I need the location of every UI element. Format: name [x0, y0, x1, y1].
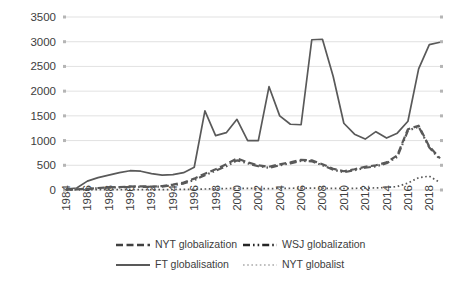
- right-tick-mark: [440, 40, 443, 43]
- right-tick-mark: [440, 90, 443, 93]
- series-line-nyt-globalization: [66, 126, 440, 190]
- x-axis-tick-label: 2000: [231, 185, 243, 211]
- series-lines: [66, 39, 440, 190]
- chart-container: 0500100015002000250030003500 19841986198…: [0, 0, 453, 282]
- right-tick-mark: [440, 16, 443, 19]
- x-axis-tick-label: 1994: [167, 185, 179, 211]
- y-axis-tick-label: 2000: [30, 85, 56, 97]
- legend-label-nyt-globalist: NYT globalist: [282, 258, 344, 270]
- y-tick-marks: [63, 16, 66, 192]
- y-tick-mark: [63, 16, 66, 19]
- right-tick-mark: [440, 65, 443, 68]
- y-axis-tick-label: 2500: [30, 60, 56, 72]
- y-axis-tick-label: 500: [37, 159, 56, 171]
- series-line-ft-globalisation: [66, 39, 440, 189]
- legend-label-wsj-globalization: WSJ globalization: [282, 238, 366, 250]
- x-axis-tick-label: 2004: [274, 185, 286, 211]
- right-tick-mark: [440, 189, 443, 192]
- line-chart: 0500100015002000250030003500 19841986198…: [0, 0, 453, 282]
- right-tick-mark: [440, 164, 443, 167]
- chart-legend: NYT globalizationWSJ globalizationFT glo…: [116, 238, 366, 270]
- y-tick-mark: [63, 139, 66, 142]
- y-tick-mark: [63, 164, 66, 167]
- x-axis-tick-label: 1996: [188, 185, 200, 211]
- x-axis-tick-label: 2014: [381, 185, 393, 211]
- x-axis-tick-label: 2016: [402, 185, 414, 211]
- legend-label-nyt-globalization: NYT globalization: [155, 238, 237, 250]
- y-tick-mark: [63, 65, 66, 68]
- y-axis-tick-label: 3500: [30, 11, 56, 23]
- y-tick-mark: [63, 114, 66, 117]
- x-axis-tick-label: 1998: [210, 185, 222, 211]
- x-axis-tick-label: 2018: [423, 185, 435, 211]
- x-axis-tick-label: 2006: [295, 185, 307, 211]
- right-tick-mark: [440, 139, 443, 142]
- y-axis-tick-labels: 0500100015002000250030003500: [30, 11, 56, 196]
- right-tick-mark: [440, 114, 443, 117]
- legend-label-ft-globalisation: FT globalisation: [155, 258, 229, 270]
- x-axis-tick-label: 2002: [252, 185, 264, 211]
- y-axis-tick-label: 0: [50, 184, 56, 196]
- y-tick-mark: [63, 40, 66, 43]
- y-tick-mark: [63, 90, 66, 93]
- right-edge-tick-marks: [440, 16, 443, 192]
- y-axis-tick-label: 1500: [30, 110, 56, 122]
- y-axis-tick-label: 3000: [30, 36, 56, 48]
- y-axis-tick-label: 1000: [30, 135, 56, 147]
